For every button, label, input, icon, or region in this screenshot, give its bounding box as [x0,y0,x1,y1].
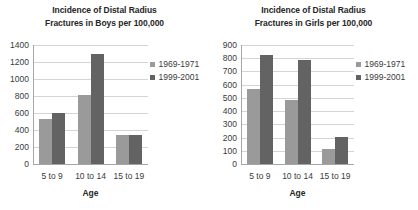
bar-boys-10-to-14-1999-2001 [91,54,104,165]
legend-swatch-icon [356,62,361,67]
y-axis-tick-label: 0 [209,160,237,169]
y-axis-tick-label: 300 [209,120,237,129]
bar-girls-15-to-19-1999-2001 [335,137,348,164]
y-axis-tick-label: 900 [209,41,237,50]
y-axis-tick-label: 200 [209,133,237,142]
x-axis-title: Age [33,188,148,198]
legend-swatch-icon [150,62,155,67]
plot-area-girls: 01002003004005006007008009005 to 910 to … [209,0,418,210]
y-axis-tick-label: 1400 [0,41,29,50]
legend-swatch-icon [150,75,155,80]
y-axis-tick-label: 800 [0,92,29,101]
y-axis-line [33,45,34,165]
legend-item-1999-2001[interactable]: 1999-2001 [150,71,199,84]
x-axis-title: Age [241,188,354,198]
bar-boys-5-to-9-1999-2001 [52,113,65,164]
y-axis-tick-label: 700 [209,67,237,76]
y-axis-tick-label: 500 [209,94,237,103]
bar-boys-10-to-14-1969-1971 [78,95,91,164]
bar-boys-15-to-19-1999-2001 [129,135,142,164]
legend-item-1969-1971[interactable]: 1969-1971 [150,58,199,71]
legend-label: 1969-1971 [365,60,406,69]
x-axis-line [33,164,148,165]
legend-girls: 1969-19711999-2001 [356,58,405,84]
bar-boys-15-to-19-1969-1971 [116,135,129,164]
y-axis-tick-label: 100 [209,147,237,156]
chart-panel-boys: Incidence of Distal Radius Fractures in … [0,0,209,210]
x-axis-tick-label: 10 to 14 [75,172,106,181]
x-axis-tick-label: 15 to 19 [113,172,144,181]
y-axis-tick-label: 800 [209,54,237,63]
bar-boys-5-to-9-1969-1971 [39,119,52,164]
legend-label: 1999-2001 [159,73,200,82]
bar-girls-5-to-9-1999-2001 [260,55,273,164]
bar-girls-15-to-19-1969-1971 [322,149,335,164]
x-axis-tick-label: 10 to 14 [282,172,313,181]
x-axis-line [241,164,354,165]
chart-panel-girls: Incidence of Distal Radius Fractures in … [209,0,418,210]
gridline [33,45,148,46]
gridline [241,45,354,46]
plot-area-boys: 02004006008001000120014005 to 910 to 141… [0,0,209,210]
x-axis-tick-label: 5 to 9 [42,172,63,181]
y-axis-tick-label: 400 [209,107,237,116]
bar-girls-10-to-14-1999-2001 [298,60,311,164]
y-axis-tick-label: 600 [0,109,29,118]
x-axis-tick-label: 5 to 9 [249,172,270,181]
bar-girls-10-to-14-1969-1971 [285,100,298,164]
legend-item-1999-2001[interactable]: 1999-2001 [356,71,405,84]
y-axis-tick-label: 1200 [0,58,29,67]
bar-girls-5-to-9-1969-1971 [247,89,260,164]
y-axis-line [241,45,242,165]
y-axis-tick-label: 200 [0,143,29,152]
y-axis-tick-label: 1000 [0,75,29,84]
legend-label: 1999-2001 [365,73,406,82]
legend-item-1969-1971[interactable]: 1969-1971 [356,58,405,71]
x-axis-tick-label: 15 to 19 [320,172,351,181]
legend-swatch-icon [356,75,361,80]
two-panel-bar-chart-figure: Incidence of Distal Radius Fractures in … [0,0,418,210]
y-axis-tick-label: 0 [0,160,29,169]
legend-boys: 1969-19711999-2001 [150,58,199,84]
y-axis-tick-label: 400 [0,126,29,135]
y-axis-tick-label: 600 [209,80,237,89]
legend-label: 1969-1971 [159,60,200,69]
